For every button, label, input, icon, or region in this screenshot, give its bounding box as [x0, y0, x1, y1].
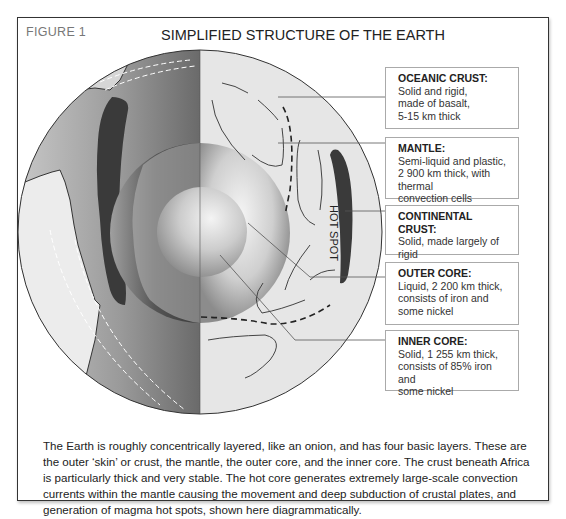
hot-spot-label: HOT SPOT — [328, 205, 340, 261]
label-oceanic-crust: OCEANIC CRUST: Solid and rigid, made of … — [385, 67, 519, 129]
label-heading: CONTINENTAL CRUST: — [398, 210, 512, 235]
label-heading: OCEANIC CRUST: — [398, 72, 512, 85]
inner-core — [157, 187, 247, 277]
label-heading: INNER CORE: — [398, 335, 512, 348]
label-heading: OUTER CORE: — [398, 267, 512, 280]
label-inner-core: INNER CORE: Solid, 1 255 km thick, consi… — [385, 330, 519, 391]
label-heading: MANTLE: — [398, 142, 512, 155]
figure-caption: The Earth is roughly concentrically laye… — [43, 438, 533, 518]
label-mantle: MANTLE: Semi-liquid and plastic, 2 900 k… — [385, 137, 519, 199]
label-continental-crust: CONTINENTAL CRUST: Solid, made largely o… — [385, 205, 519, 255]
label-outer-core: OUTER CORE: Liquid, 2 200 km thick, cons… — [385, 262, 519, 325]
